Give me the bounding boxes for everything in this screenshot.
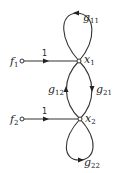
edge-x2-to-x1 [66,61,80,119]
arrow-f2-icon [43,117,49,122]
gain-f1-x1: 1 [42,49,47,58]
edge-x2-self-loop [66,119,93,160]
node-f1 [20,59,24,63]
node-x1 [77,59,81,63]
label-x1: x1 [84,53,95,67]
label-f2: f2 [9,113,19,127]
edge-x1-to-x2 [79,61,92,119]
node-x2 [78,117,82,121]
gain-f2-x2: 1 [42,107,47,116]
gain-g11: g11 [83,11,99,25]
gain-g21: g21 [96,83,112,97]
gain-g22: g22 [84,156,100,170]
label-f1: f1 [9,55,19,69]
node-f2 [20,117,24,121]
arrow-g12-icon [64,86,69,92]
gain-g12: g12 [48,83,64,97]
signal-flow-graph: f1 f2 x1 x2 1 1 g11 g21 g12 g22 [0,0,119,173]
arrow-f1-icon [43,59,49,64]
arrow-g11-icon [73,11,79,16]
arrow-g21-icon [90,86,95,92]
label-x2: x2 [85,112,96,126]
